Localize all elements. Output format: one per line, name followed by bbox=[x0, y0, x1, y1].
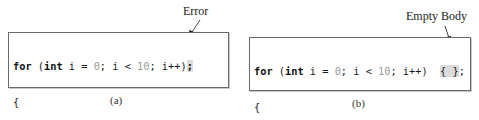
number-literal: 10 bbox=[378, 65, 390, 77]
code-text: ( bbox=[273, 65, 285, 77]
code-text: ; i < bbox=[341, 65, 378, 77]
keyword-for: for bbox=[254, 65, 273, 77]
empty-body-braces: { } bbox=[440, 65, 459, 77]
code-text: i = bbox=[304, 65, 335, 77]
code-block-b: for (int i = 0; i < 10; i++) { }; { Syst… bbox=[249, 37, 471, 91]
caption-b: (b) bbox=[352, 97, 365, 109]
code-text: ; i++) bbox=[390, 65, 440, 77]
code-line-1: for (int i = 0; i < 10; i++) { }; bbox=[254, 65, 466, 77]
code-text: ; bbox=[459, 65, 465, 77]
keyword-int: int bbox=[285, 65, 304, 77]
